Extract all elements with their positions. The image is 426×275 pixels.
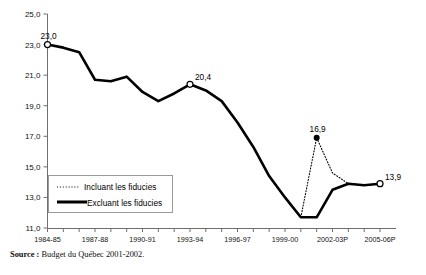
data-point-marker <box>314 135 319 140</box>
data-point-label: 13,9 <box>385 172 402 182</box>
x-tick-label: 1999-00 <box>272 235 298 244</box>
y-tick-label: 21,0 <box>25 71 41 80</box>
data-point-labels: 23,020,416,913,9 <box>40 31 401 182</box>
x-tick-label: 1990-91 <box>129 235 155 244</box>
data-point-label: 16,9 <box>310 124 327 134</box>
y-tick-label: 11,0 <box>26 224 42 233</box>
series-incluant-les-fiducies <box>301 138 380 217</box>
x-tick-label: 2002-03P <box>317 235 348 244</box>
x-tick-label: 1987-88 <box>82 235 108 244</box>
y-tick-label: 23,0 <box>25 41 41 50</box>
x-axis: 1984-851987-881990-911993-941996-971999-… <box>34 228 396 244</box>
y-tick-label: 17,0 <box>25 132 41 141</box>
data-point-marker <box>377 181 383 187</box>
chart-figure: 11,013,015,017,019,021,023,025,0 1984-85… <box>0 0 426 275</box>
x-axis-ticks: 1984-851987-881990-911993-941996-971999-… <box>34 228 395 244</box>
data-point-markers <box>45 42 384 187</box>
legend: Incluant les fiducies Excluant les fiduc… <box>49 176 173 213</box>
legend-label-incluant: Incluant les fiducies <box>84 182 156 192</box>
data-point-label: 23,0 <box>40 31 57 41</box>
line-chart: 11,013,015,017,019,021,023,025,0 1984-85… <box>0 0 426 248</box>
legend-label-excluant: Excluant les fiducies <box>87 198 162 208</box>
x-tick-label: 1993-94 <box>177 235 203 244</box>
y-tick-label: 25,0 <box>25 10 41 19</box>
y-tick-label: 19,0 <box>25 102 41 111</box>
y-tick-label: 13,0 <box>25 193 41 202</box>
source-note: Source : Budget du Québec 2001-2002. <box>10 250 144 259</box>
y-tick-label: 15,0 <box>25 163 41 172</box>
data-point-label: 20,4 <box>195 72 212 82</box>
x-tick-label: 1996-97 <box>224 235 250 244</box>
source-text: Budget du Québec 2001-2002. <box>41 250 144 259</box>
data-point-marker <box>187 81 193 87</box>
data-point-marker <box>45 42 51 48</box>
x-tick-label: 1984-85 <box>34 235 60 244</box>
x-tick-label: 2005-06P <box>364 235 395 244</box>
source-label: Source : <box>10 250 39 259</box>
